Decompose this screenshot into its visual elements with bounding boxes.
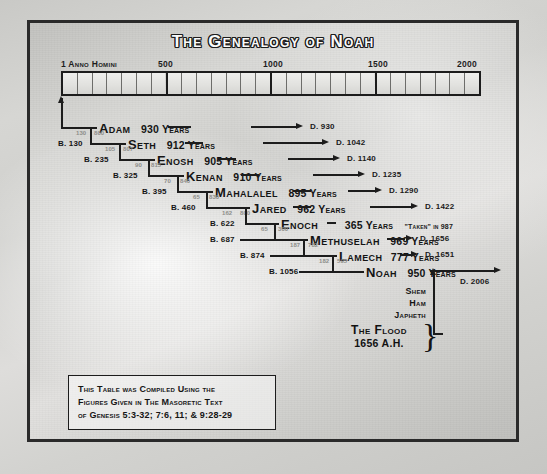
seth-life-line	[263, 142, 323, 144]
generation-birth: B. 1056	[269, 267, 298, 276]
methuselah-arrow-icon	[406, 235, 413, 241]
enoch-dash	[327, 222, 336, 224]
mahalalel-dash	[293, 190, 311, 192]
jared-dash	[293, 206, 311, 208]
generation-lifespan: 905 Years	[204, 155, 253, 167]
flood-arrow-icon	[430, 268, 436, 275]
seth-dash	[185, 142, 203, 144]
jared-arrow-icon	[411, 203, 418, 209]
son-name-shem: Shem	[330, 285, 426, 297]
methuselah-years-after: 782	[308, 242, 318, 248]
seth-age-at-son: 105	[105, 146, 115, 152]
generation-death: D. 1235	[372, 170, 401, 179]
generation-lifespan: 930 Years	[141, 123, 190, 135]
methuselah-dash	[387, 238, 405, 240]
adam-life-line	[251, 126, 297, 128]
jared-bar	[206, 207, 250, 209]
kenan-arrow-icon	[358, 171, 365, 177]
flood-label: The Flood 1656 A.H.	[330, 323, 428, 350]
source-note-line-2: Figures Given in The Masoretic Text	[78, 396, 266, 409]
generation-birth: B. 235	[84, 155, 109, 164]
generation-name: Methuselah	[310, 233, 380, 248]
generation-birth: B. 325	[113, 171, 138, 180]
generation-birth: B. 687	[210, 235, 235, 244]
mahalalel-age-at-son: 65	[193, 194, 200, 200]
son-name-ham: Ham	[330, 297, 426, 309]
flood-year: 1656 A.H.	[330, 337, 428, 350]
source-note-line-3: of Genesis 5:3-32; 7:6, 11; & 9:28-29	[78, 409, 266, 422]
chart-frame: The Genealogy of Noah 1 Anno Homini 500 …	[27, 20, 519, 442]
generation-birth: B. 460	[171, 203, 196, 212]
noah-arrow-icon	[494, 267, 501, 273]
generation-birth: B. 622	[210, 219, 235, 228]
seth-years-after: 807	[123, 146, 133, 152]
enoch-age-at-son: 65	[261, 226, 268, 232]
generation-lifespan: 962 Years	[297, 203, 346, 215]
kenan-life-line	[313, 174, 359, 176]
generation-row-kenan: Kenan 910 Years	[186, 167, 282, 183]
generation-lifespan: 365 Years	[345, 219, 394, 231]
kenan-years-after: 840	[180, 178, 190, 184]
generation-name: Noah	[366, 265, 397, 280]
source-note-box: This Table was Compiled Using the Figure…	[68, 375, 276, 430]
flood-brace-icon: }	[422, 319, 438, 353]
generation-name: Jared	[252, 201, 287, 216]
jared-life-line	[370, 206, 412, 208]
enosh-dash	[218, 158, 236, 160]
mahalalel-arrow-icon	[375, 187, 382, 193]
generation-death: D. 1140	[347, 154, 376, 163]
mahalalel-life-line	[348, 190, 376, 192]
noah-bar	[332, 271, 364, 273]
lamech-age-at-son: 182	[319, 258, 329, 264]
kenan-age-at-son: 70	[164, 178, 171, 184]
generation-birth: B. 874	[240, 251, 265, 260]
methuselah-bar-left	[240, 239, 274, 241]
adam-dash	[168, 126, 191, 128]
adam-years-after: 800	[94, 130, 104, 136]
generation-row-enosh: Enosh 905 Years	[157, 151, 253, 167]
lamech-years-after: 595	[337, 258, 347, 264]
lamech-bar-left	[270, 255, 304, 257]
lamech-arrow-icon	[411, 251, 418, 257]
methuselah-age-at-son: 187	[290, 242, 300, 248]
flood-title: The Flood	[330, 323, 428, 337]
enosh-life-line	[288, 158, 334, 160]
generation-death: D. 1290	[389, 186, 418, 195]
generation-death: D. 1656	[420, 234, 449, 243]
generation-name: Enosh	[157, 153, 194, 168]
enosh-years-after: 815	[151, 162, 161, 168]
generation-name: Kenan	[186, 169, 223, 184]
generation-death: D. 1042	[336, 138, 365, 147]
generation-birth: B. 395	[142, 187, 167, 196]
generation-row-mahalalel: Mahalalel 895 Years	[215, 183, 337, 199]
adam-age-at-son: 130	[76, 130, 86, 136]
generation-note: "Taken" in 987	[405, 223, 453, 230]
mahalalel-years-after: 830	[209, 194, 219, 200]
generation-row-enoch: Enoch 365 Years "Taken" in 987	[281, 215, 453, 231]
generation-death: D. 930	[310, 122, 335, 131]
generation-lifespan: 910 Years	[233, 171, 282, 183]
generation-death: D. 2006	[460, 277, 489, 286]
generation-lifespan: 895 Years	[288, 187, 337, 199]
seth-arrow-icon	[322, 139, 329, 145]
generation-death: D. 1422	[425, 202, 454, 211]
generation-lifespan: 912 Years	[167, 139, 216, 151]
generation-death: D. 1651	[425, 250, 454, 259]
generation-name: Mahalalel	[215, 185, 278, 200]
son-name-japheth: Japheth	[330, 309, 426, 321]
sons-of-noah: Shem Ham Japheth	[330, 285, 426, 321]
kenan-dash	[241, 174, 259, 176]
enosh-arrow-icon	[333, 155, 340, 161]
enoch-years-after: 300	[278, 226, 288, 232]
jared-age-at-son: 162	[222, 210, 232, 216]
enosh-age-at-son: 90	[135, 162, 142, 168]
origin-arrow-icon	[58, 96, 64, 103]
noah-bar-left	[299, 271, 333, 273]
source-note-line-1: This Table was Compiled Using the	[78, 383, 266, 396]
noah-life-line	[430, 270, 495, 272]
generation-birth: B. 130	[58, 139, 83, 148]
genealogy-chart: The Genealogy of Noah 1 Anno Homini 500 …	[0, 0, 547, 474]
adam-arrow-icon	[296, 123, 303, 129]
